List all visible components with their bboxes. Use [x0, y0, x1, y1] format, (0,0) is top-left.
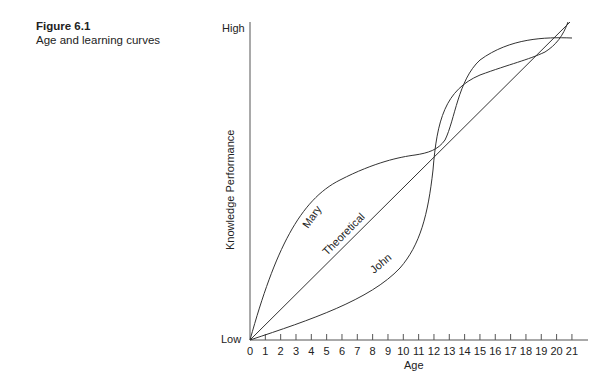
x-tick-label: 18 — [520, 345, 532, 357]
x-tick-label: 11 — [413, 345, 424, 357]
learning-curves-chart: High Low Knowledge Performance 012345678… — [0, 0, 614, 388]
x-tick-label: 20 — [550, 345, 562, 357]
y-label-high: High — [222, 22, 245, 34]
mary-label: Mary — [300, 203, 324, 230]
x-axis-ticks: 0123456789101112131415161718192021 — [247, 334, 578, 357]
y-label-low: Low — [221, 333, 241, 345]
x-tick-label: 13 — [443, 345, 455, 357]
x-tick-label: 9 — [385, 345, 391, 357]
theoretical-label: Theoretical — [320, 210, 367, 257]
x-tick-label: 16 — [489, 345, 501, 357]
x-tick-label: 15 — [474, 345, 486, 357]
x-tick-label: 12 — [428, 345, 440, 357]
x-tick-label: 7 — [354, 345, 360, 357]
mary-curve — [250, 38, 572, 340]
x-tick-label: 8 — [370, 345, 376, 357]
x-tick-label: 14 — [458, 345, 470, 357]
x-tick-label: 10 — [397, 345, 409, 357]
x-tick-label: 2 — [278, 345, 284, 357]
x-axis-title: Age — [404, 359, 424, 371]
x-tick-label: 1 — [262, 345, 268, 357]
x-tick-label: 19 — [535, 345, 547, 357]
theoretical-curve — [250, 22, 570, 340]
y-axis-title: Knowledge Performance — [224, 130, 236, 250]
x-tick-label: 21 — [566, 345, 578, 357]
x-tick-label: 4 — [308, 345, 314, 357]
x-tick-label: 3 — [293, 345, 299, 357]
x-tick-label: 0 — [247, 345, 253, 357]
x-tick-label: 6 — [339, 345, 345, 357]
john-label: John — [368, 251, 394, 276]
x-tick-label: 5 — [324, 345, 330, 357]
x-tick-label: 17 — [504, 345, 516, 357]
